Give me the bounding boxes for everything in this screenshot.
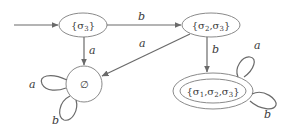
svg-text:b: b <box>52 114 59 127</box>
svg-text:a: a <box>29 78 36 91</box>
self-loop-empty-a: a <box>29 76 67 91</box>
node-sigma3: {σ3} <box>59 13 107 37</box>
node-empty-set: ∅ <box>66 66 102 102</box>
svg-text:b: b <box>138 10 145 23</box>
edge-sigma3-to-sigma2sigma3: b <box>107 10 181 25</box>
self-loop-final-a: a <box>237 39 261 77</box>
edge-sigma3-to-empty: a <box>84 37 96 65</box>
node-sigma2-sigma3: {σ2,σ3} <box>182 13 240 37</box>
node-sigma1-sigma2-sigma3-accepting: {σ1,σ2,σ3} <box>173 73 253 109</box>
svg-text:b: b <box>264 108 271 121</box>
node-label: {σ <box>71 20 84 31</box>
svg-text:{σ2,σ3}: {σ2,σ3} <box>192 20 231 33</box>
automaton-diagram: {σ3} {σ2,σ3} ∅ {σ1,σ2,σ3} b a a b a <box>0 0 285 132</box>
svg-text:{σ1,σ2,σ3}: {σ1,σ2,σ3} <box>186 86 239 99</box>
edge-sigma2sigma3-to-empty: a <box>102 34 190 76</box>
svg-text:b: b <box>212 43 219 56</box>
node-label: ∅ <box>80 79 89 90</box>
self-loop-final-b: b <box>250 92 276 121</box>
svg-text:a: a <box>139 37 146 50</box>
self-loop-empty-b: b <box>52 96 77 127</box>
edge-sigma2sigma3-to-sigma1sigma2sigma3: b <box>207 37 219 72</box>
svg-text:a: a <box>89 44 96 57</box>
svg-text:a: a <box>254 39 261 52</box>
svg-text:{σ3}: {σ3} <box>71 20 95 33</box>
